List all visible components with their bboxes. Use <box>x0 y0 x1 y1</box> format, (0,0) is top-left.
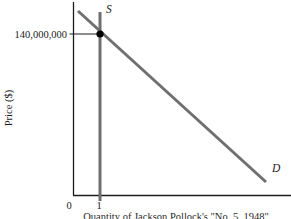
y-tick-label-140000000: 140,000,000 <box>15 29 68 40</box>
y-axis-title: Price ($) <box>3 89 15 126</box>
x-tick-label-0: 0 <box>66 200 71 211</box>
demand-curve-label: D <box>271 162 281 174</box>
supply-curve-label: S <box>106 3 112 15</box>
supply-demand-chart: S D 140,000,000 Price ($) 0 1 Quantity o… <box>0 0 291 219</box>
x-tick-label-1: 1 <box>96 200 101 211</box>
chart-canvas: S D 140,000,000 Price ($) 0 1 Quantity o… <box>0 0 291 219</box>
x-axis-title: Quantity of Jackson Pollock's "No. 5, 19… <box>83 211 268 219</box>
demand-curve <box>78 11 266 182</box>
equilibrium-point <box>96 30 103 37</box>
